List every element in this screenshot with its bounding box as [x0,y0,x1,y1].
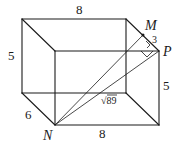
label-segment-MP: 3 [152,34,157,45]
label-point-N: N [42,128,53,143]
point-M-dot [142,34,145,37]
label-right-height: 5 [163,78,170,93]
label-diagonal: √89 [101,95,117,106]
back-face [22,19,126,93]
edge-depth-bottom-right [126,93,159,125]
depth-edges [22,19,159,125]
line-N-P [55,51,159,125]
label-bottom-length: 8 [99,126,106,141]
label-depth: 6 [25,107,32,122]
label-point-M: M [144,18,158,33]
prism-svg: 8 5 6 8 5 3 M P N √89 [0,0,179,145]
label-point-P: P [162,44,172,59]
edge-depth-top-left [22,19,55,51]
prism-diagram: 8 5 6 8 5 3 M P N √89 [0,0,179,145]
label-left-height: 5 [8,48,15,63]
line-N-M [55,35,143,125]
label-top-length: 8 [76,2,83,17]
diagonals [55,35,159,125]
